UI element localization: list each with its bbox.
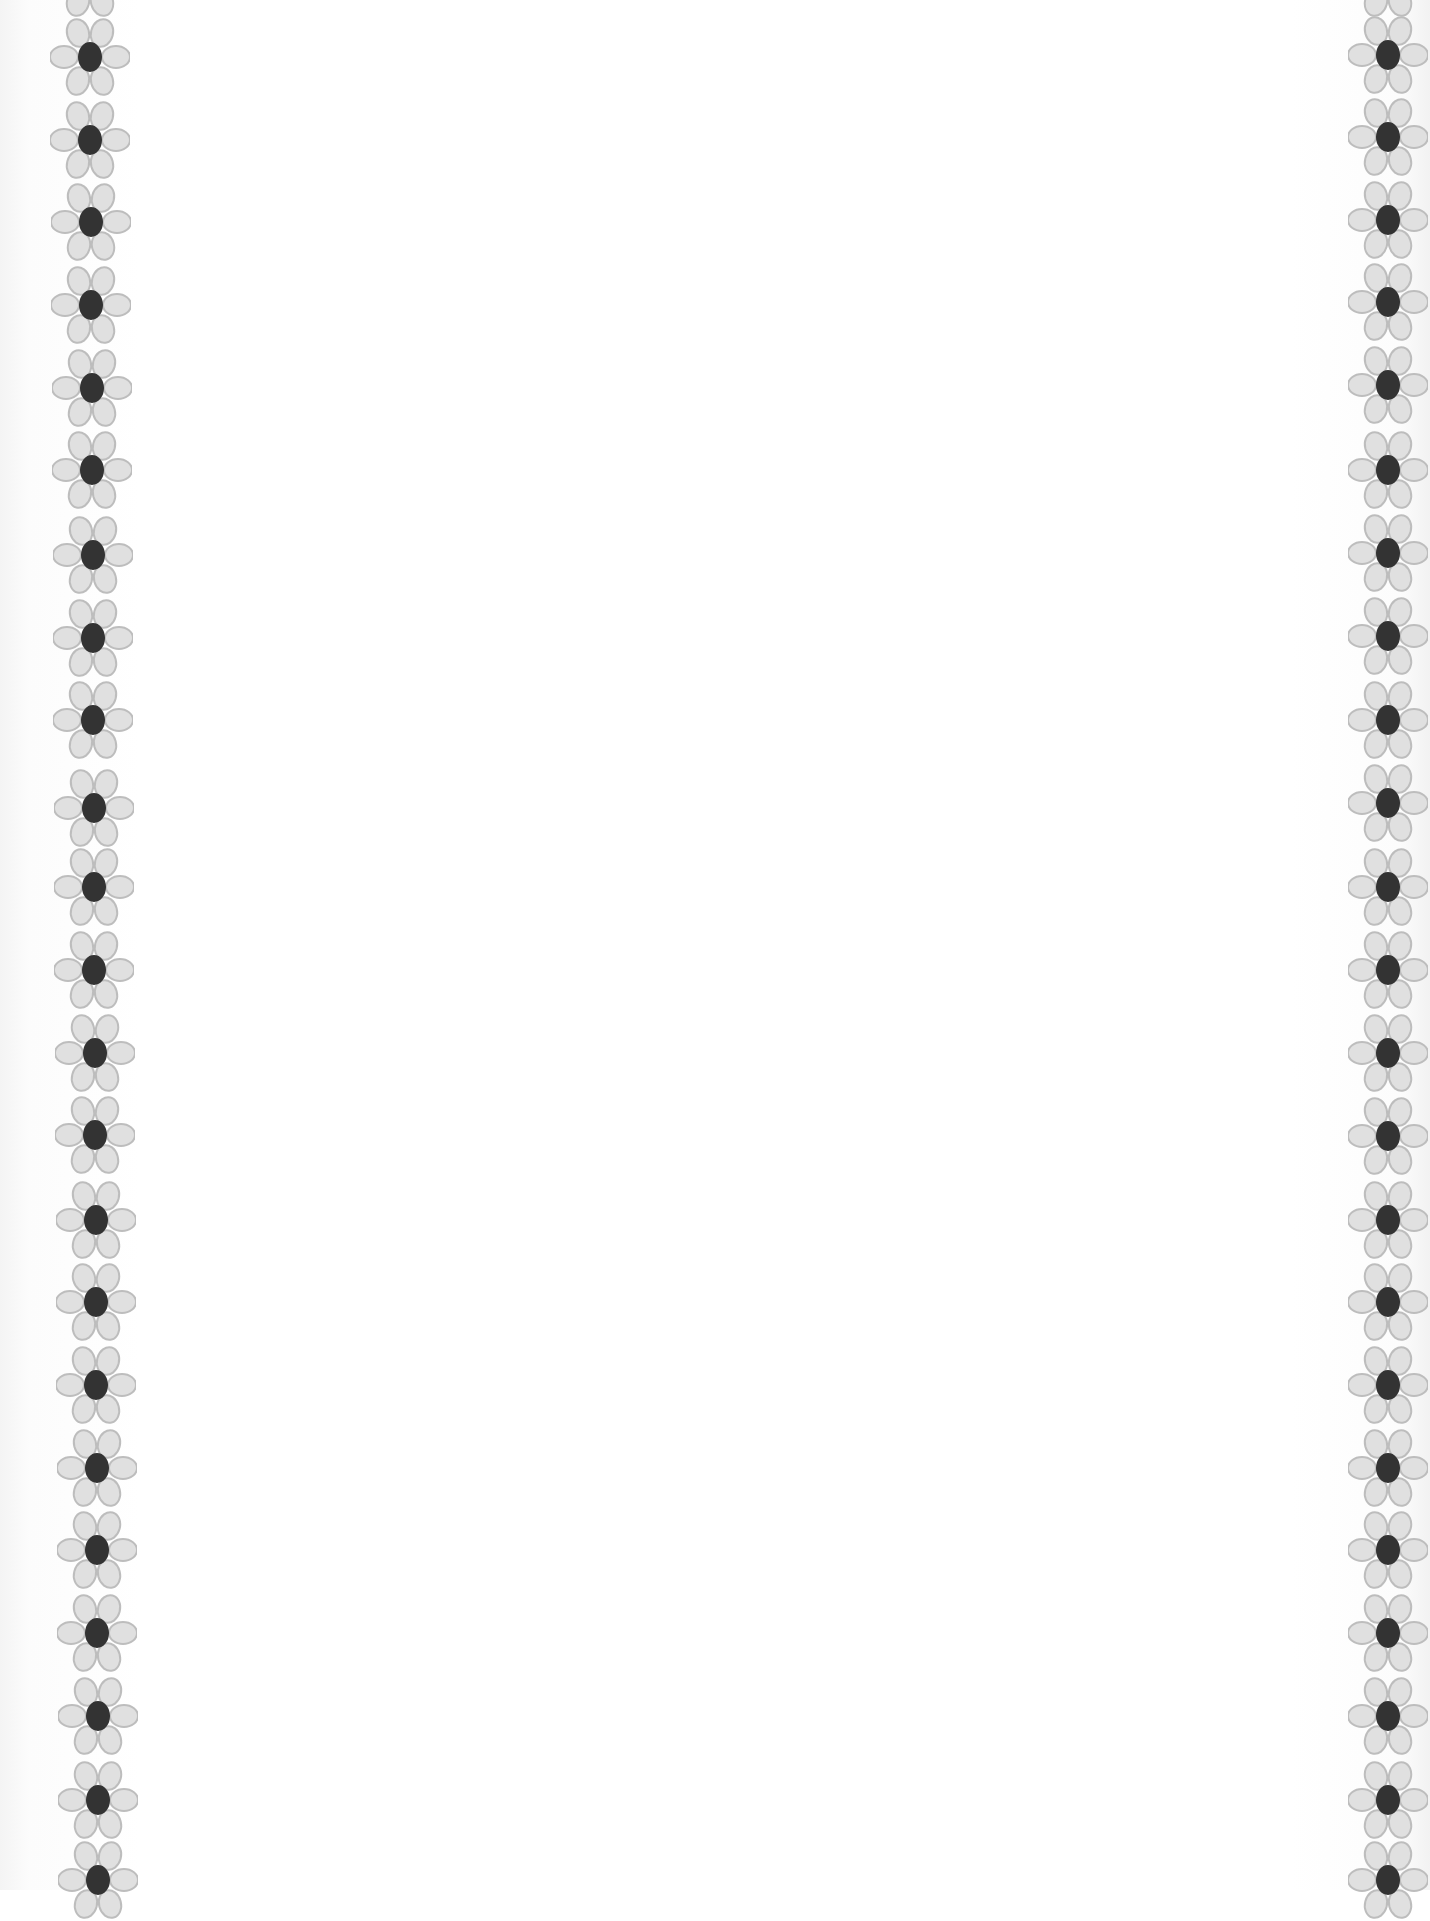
flower-icon: [53, 679, 133, 761]
flower-icon: [52, 429, 132, 511]
flower-icon: [53, 597, 133, 679]
flower-icon: [50, 16, 130, 98]
flower-icon: [58, 1675, 138, 1757]
flower-icon: [1348, 679, 1428, 761]
empty-content-area: [160, 40, 1270, 1850]
left-flower-border: [40, 0, 140, 1890]
flower-icon: [1348, 1839, 1428, 1921]
flower-icon: [55, 1012, 135, 1094]
flower-icon: [57, 1427, 137, 1509]
flower-icon: [51, 264, 131, 346]
flower-icon: [1348, 1759, 1428, 1841]
flower-icon: [1348, 1427, 1428, 1509]
flower-icon: [53, 514, 133, 596]
flower-icon: [50, 99, 130, 181]
flower-icon: [51, 181, 131, 263]
flower-icon: [1348, 762, 1428, 844]
flower-icon: [56, 1344, 136, 1426]
flower-icon: [54, 846, 134, 928]
flower-icon: [1348, 929, 1428, 1011]
flower-icon: [56, 1261, 136, 1343]
flower-icon: [1348, 261, 1428, 343]
flower-icon: [54, 767, 134, 849]
right-flower-border: [1337, 0, 1430, 1890]
flower-icon: [1348, 1012, 1428, 1094]
flower-icon: [1348, 96, 1428, 178]
flower-icon: [1348, 1509, 1428, 1591]
flower-icon: [1348, 14, 1428, 96]
flower-icon: [1348, 429, 1428, 511]
flower-icon: [1348, 179, 1428, 261]
flower-icon: [56, 1179, 136, 1261]
flower-icon: [54, 929, 134, 1011]
flower-icon: [57, 1592, 137, 1674]
flower-icon: [1348, 1344, 1428, 1426]
flower-icon: [55, 1094, 135, 1176]
flower-icon: [1348, 1095, 1428, 1177]
flower-icon: [1348, 344, 1428, 426]
flower-icon: [1348, 1261, 1428, 1343]
flower-icon: [57, 1509, 137, 1591]
flower-icon: [52, 347, 132, 429]
flower-icon: [1348, 1592, 1428, 1674]
flower-icon: [1348, 595, 1428, 677]
flower-icon: [1348, 1179, 1428, 1261]
flower-icon: [1348, 1675, 1428, 1757]
flower-icon: [58, 1839, 138, 1921]
flower-icon: [1348, 512, 1428, 594]
flower-icon: [1348, 846, 1428, 928]
flower-icon: [58, 1759, 138, 1841]
